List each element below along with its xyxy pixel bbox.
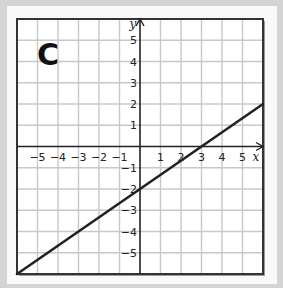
y-tick-label: −1: [121, 162, 137, 175]
panel-label: C: [37, 37, 59, 72]
x-tick-label: −5: [29, 151, 45, 164]
x-tick-label: 1: [157, 151, 164, 164]
coordinate-plane: −5−4−3−2−11234554321−1−2−3−4−5xyC: [0, 0, 283, 288]
y-tick-label: 3: [130, 77, 137, 90]
y-tick-label: −5: [121, 247, 137, 260]
x-tick-label: 3: [198, 151, 205, 164]
y-axis-label: y: [129, 17, 137, 31]
y-tick-label: 2: [130, 98, 137, 111]
y-tick-label: 5: [130, 34, 137, 47]
y-tick-label: 1: [130, 119, 137, 132]
x-tick-label: 4: [219, 151, 226, 164]
x-tick-label: −2: [91, 151, 107, 164]
x-axis-label: x: [253, 150, 260, 164]
x-tick-label: −4: [50, 151, 66, 164]
y-tick-label: 4: [130, 56, 137, 69]
y-tick-label: −3: [121, 204, 137, 217]
y-tick-label: −4: [121, 226, 137, 239]
x-tick-label: 5: [239, 151, 246, 164]
x-tick-label: −3: [70, 151, 86, 164]
